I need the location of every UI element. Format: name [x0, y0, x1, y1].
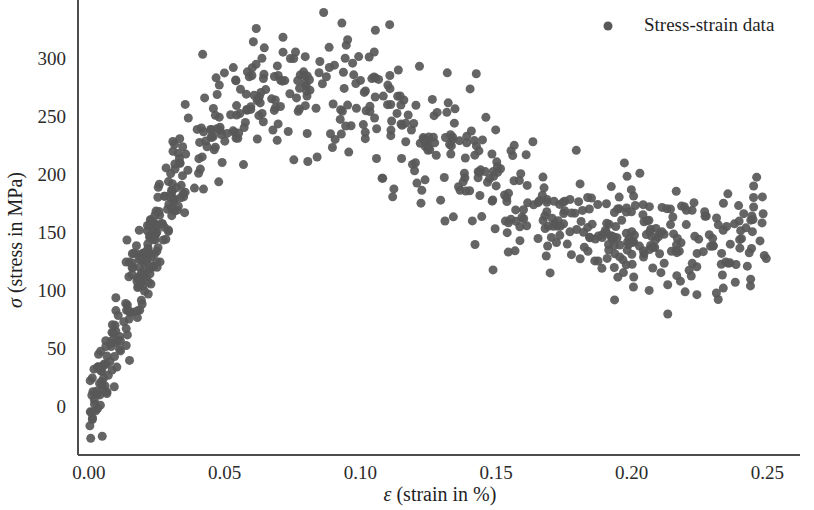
scatter-point — [645, 286, 654, 295]
scatter-point — [692, 290, 701, 299]
scatter-point — [378, 174, 387, 183]
x-tick-label: 0.15 — [479, 462, 512, 483]
scatter-point — [200, 93, 209, 102]
scatter-point — [743, 262, 752, 271]
scatter-point — [284, 127, 293, 136]
scatter-point — [303, 129, 312, 138]
scatter-plot: 0.000.050.100.150.200.25 050100150200250… — [0, 0, 814, 510]
scatter-point — [579, 228, 588, 237]
scatter-point — [241, 118, 250, 127]
scatter-point — [672, 271, 681, 280]
scatter-point — [122, 324, 131, 333]
scatter-point — [110, 382, 119, 391]
scatter-point — [563, 240, 572, 249]
scatter-point — [598, 233, 607, 242]
scatter-point — [673, 234, 682, 243]
scatter-point — [629, 238, 638, 247]
scatter-point — [629, 273, 638, 282]
scatter-point — [567, 209, 576, 218]
y-tick-label: 200 — [38, 164, 67, 185]
scatter-point — [360, 88, 369, 97]
scatter-point — [746, 275, 755, 284]
scatter-point — [159, 236, 168, 245]
scatter-point — [125, 356, 134, 365]
scatter-point — [180, 208, 189, 217]
scatter-point — [354, 52, 363, 61]
scatter-point — [432, 151, 441, 160]
scatter-point — [143, 221, 152, 230]
scatter-point — [583, 247, 592, 256]
scatter-point — [164, 227, 173, 236]
scatter-point — [607, 182, 616, 191]
scatter-point — [98, 432, 107, 441]
scatter-point — [91, 406, 100, 415]
scatter-point — [705, 230, 714, 239]
scatter-point — [135, 226, 144, 235]
scatter-point — [174, 149, 183, 158]
scatter-point — [386, 126, 395, 135]
scatter-point — [666, 220, 675, 229]
scatter-point — [86, 434, 95, 443]
scatter-point — [279, 48, 288, 57]
scatter-point — [397, 154, 406, 163]
scatter-point — [607, 231, 616, 240]
scatter-point — [412, 179, 421, 188]
scatter-point — [502, 197, 511, 206]
scatter-point — [401, 137, 410, 146]
scatter-point — [229, 126, 238, 135]
scatter-point — [111, 293, 120, 302]
scatter-point — [156, 257, 165, 266]
scatter-point — [510, 176, 519, 185]
scatter-point — [523, 181, 532, 190]
scatter-point — [565, 227, 574, 236]
scatter-point — [627, 250, 636, 259]
scatter-point — [687, 272, 696, 281]
plot-background — [0, 0, 814, 510]
scatter-point — [719, 284, 728, 293]
scatter-point — [134, 255, 143, 264]
scatter-point — [466, 84, 475, 93]
scatter-point — [129, 263, 138, 272]
scatter-point — [338, 107, 347, 116]
scatter-point — [699, 247, 708, 256]
scatter-point — [132, 241, 141, 250]
scatter-point — [111, 321, 120, 330]
x-tick-label: 0.10 — [344, 462, 377, 483]
scatter-point — [206, 125, 215, 134]
scatter-point — [675, 247, 684, 256]
scatter-point — [143, 245, 152, 254]
scatter-point — [603, 254, 612, 263]
scatter-point — [700, 207, 709, 216]
scatter-point — [474, 173, 483, 182]
svg-text:σ (stress in MPa): σ (stress in MPa) — [4, 172, 27, 308]
scatter-point — [328, 143, 337, 152]
y-tick-label: 0 — [57, 396, 67, 417]
scatter-point — [326, 129, 335, 138]
scatter-point — [540, 211, 549, 220]
scatter-point — [194, 154, 203, 163]
scatter-point — [242, 106, 251, 115]
scatter-point — [170, 140, 179, 149]
scatter-point — [152, 207, 161, 216]
scatter-point — [515, 236, 524, 245]
scatter-point — [460, 169, 469, 178]
scatter-point — [572, 146, 581, 155]
scatter-point — [534, 198, 543, 207]
scatter-point — [542, 252, 551, 261]
scatter-point — [506, 215, 515, 224]
scatter-point — [468, 216, 477, 225]
scatter-point — [110, 352, 119, 361]
scatter-point — [449, 212, 458, 221]
scatter-point — [628, 260, 637, 269]
scatter-point — [122, 235, 131, 244]
scatter-point — [154, 183, 163, 192]
scatter-point — [442, 108, 451, 117]
scatter-point — [511, 246, 520, 255]
scatter-point — [113, 336, 122, 345]
scatter-point — [135, 306, 144, 315]
scatter-point — [95, 379, 104, 388]
scatter-point — [416, 139, 425, 148]
scatter-point — [428, 95, 437, 104]
scatter-point — [273, 136, 282, 145]
scatter-point — [645, 202, 654, 211]
